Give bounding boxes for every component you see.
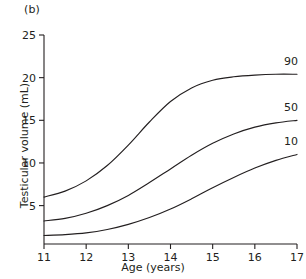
- x-axis-tick-label: 16: [248, 251, 262, 264]
- percentile-curve-50: [44, 120, 297, 221]
- x-axis-tick-label: 17: [290, 251, 304, 264]
- y-axis-tick-label: 5: [29, 200, 36, 213]
- x-axis-tick-label: 14: [164, 251, 178, 264]
- x-axis-tick-label: 12: [79, 251, 93, 264]
- percentile-curve-label-90: 90: [284, 55, 298, 68]
- y-axis-tick-label: 15: [22, 114, 36, 127]
- y-axis-tick-label: 25: [22, 29, 36, 42]
- y-axis-tick-label: 20: [22, 72, 36, 85]
- percentile-curve-90: [44, 74, 297, 197]
- x-axis-tick-label: 13: [121, 251, 135, 264]
- percentile-curve-10: [44, 154, 297, 235]
- plot-canvas: 51015202511121314151617905010: [0, 0, 306, 279]
- x-axis-tick-label: 11: [37, 251, 51, 264]
- percentile-curve-label-10: 10: [284, 135, 298, 148]
- x-axis-tick-label: 15: [206, 251, 220, 264]
- percentile-curve-label-50: 50: [284, 101, 298, 114]
- figure-panel-b: (b) Testicular volume (mL) Age (years) 5…: [0, 0, 306, 279]
- y-axis-tick-label: 10: [22, 157, 36, 170]
